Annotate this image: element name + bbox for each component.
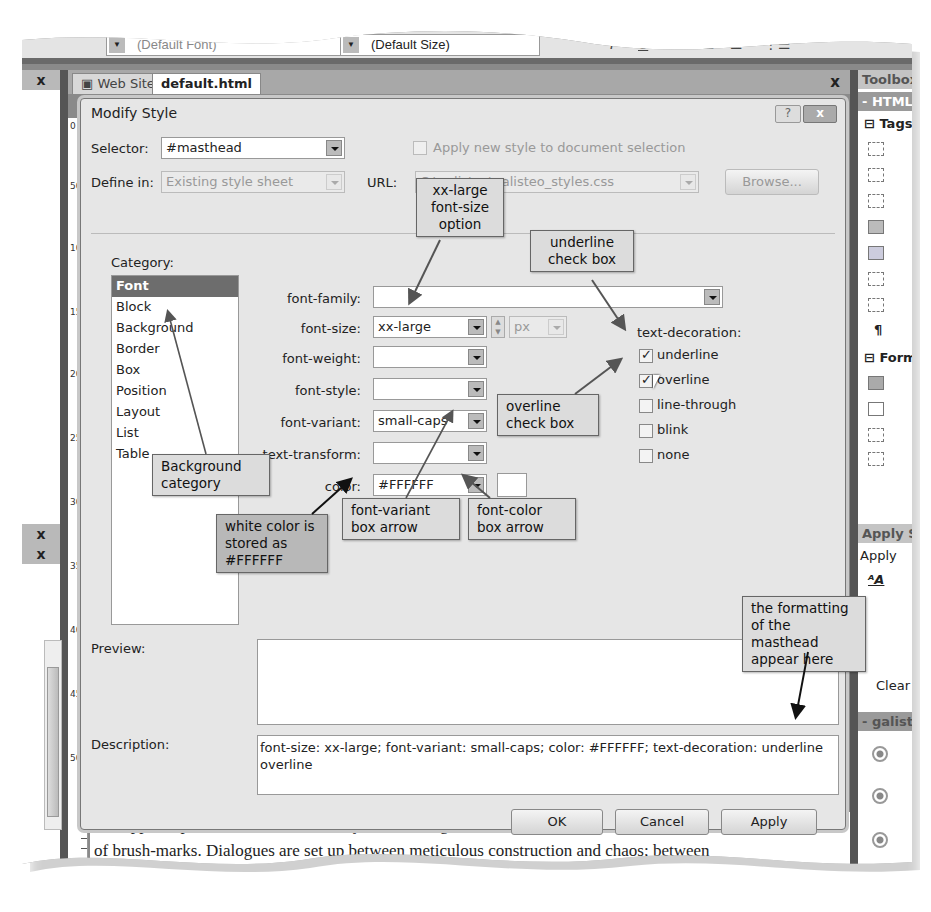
- category-font[interactable]: Font: [112, 276, 238, 297]
- text-transform-label: text-transform:: [263, 447, 361, 462]
- chevron-down-icon: [468, 349, 484, 365]
- overline-checkbox[interactable]: [639, 374, 653, 388]
- font-family-dropdown[interactable]: ▼ (Default Font): [106, 34, 376, 56]
- close-icon[interactable]: x: [22, 544, 60, 564]
- tab-web-site[interactable]: ▣ Web Site: [72, 73, 164, 94]
- hr-tag-icon[interactable]: [868, 220, 884, 234]
- iframe-tag-icon[interactable]: [868, 272, 884, 286]
- style-bullet-icon[interactable]: [872, 832, 888, 848]
- text-decoration-label: text-decoration:: [637, 325, 741, 340]
- define-in-label: Define in:: [91, 175, 154, 190]
- apply-new-style-label: Apply new style to document selection: [433, 140, 685, 155]
- span-tag-icon[interactable]: [868, 168, 884, 182]
- apply-styles-tab[interactable]: Apply: [860, 548, 897, 563]
- category-list[interactable]: List: [112, 423, 238, 444]
- font-variant-dropdown[interactable]: small-caps: [373, 410, 487, 432]
- chevron-down-icon: [704, 289, 720, 305]
- ruler-tick: 0: [70, 122, 78, 131]
- text-transform-dropdown[interactable]: [373, 442, 487, 464]
- clear-styles-item[interactable]: Clear: [876, 678, 910, 693]
- chevron-down-icon: [680, 174, 696, 190]
- description-label: Description:: [91, 737, 169, 752]
- forms-group[interactable]: ⊟ Form: [864, 350, 912, 365]
- div-tag-icon[interactable]: [868, 142, 884, 156]
- font-size-dropdown[interactable]: xx-large: [373, 316, 487, 338]
- preview-label: Preview:: [91, 641, 145, 656]
- selector-dropdown[interactable]: #masthead: [161, 137, 345, 159]
- ruler-tick: 400: [70, 626, 78, 635]
- category-background[interactable]: Background: [112, 318, 238, 339]
- align-right-button[interactable]: ☰: [730, 36, 743, 52]
- font-size-unit-dropdown[interactable]: px: [509, 316, 567, 338]
- apply-button[interactable]: Apply: [721, 809, 817, 835]
- layer-tag-icon[interactable]: [868, 298, 884, 312]
- category-border[interactable]: Border: [112, 339, 238, 360]
- define-in-dropdown[interactable]: Existing style sheet: [161, 171, 345, 193]
- close-icon[interactable]: x: [22, 524, 60, 544]
- toolbox-panel: Toolbox - HTML ⊟ Tags ¶ ⊟ Form Apply Sty…: [850, 70, 912, 870]
- underline-checkbox[interactable]: [639, 349, 653, 363]
- category-block[interactable]: Block: [112, 297, 238, 318]
- apply-new-style-checkbox[interactable]: [413, 141, 427, 155]
- paragraph-icon[interactable]: ¶: [874, 322, 882, 337]
- browse-button[interactable]: Browse...: [725, 169, 819, 195]
- galisteo-section-header[interactable]: - galisteo: [858, 712, 912, 731]
- align-center-button[interactable]: ☰: [702, 36, 715, 52]
- left-panel: x x x: [22, 70, 68, 870]
- blink-checkbox[interactable]: [639, 424, 653, 438]
- break-tag-icon[interactable]: [868, 194, 884, 208]
- font-size-dropdown[interactable]: ▼ (Default Size): [340, 34, 540, 56]
- ruler-tick: 250: [70, 434, 78, 443]
- callout-underline: underline check box: [530, 230, 634, 272]
- close-icon[interactable]: x: [22, 70, 60, 90]
- close-tab-icon[interactable]: x: [830, 73, 840, 91]
- image-tag-icon[interactable]: [868, 246, 884, 260]
- italic-button[interactable]: I: [610, 36, 614, 52]
- font-weight-dropdown[interactable]: [373, 346, 487, 368]
- font-weight-label: font-weight:: [282, 351, 361, 366]
- cancel-button[interactable]: Cancel: [615, 809, 709, 835]
- screenshot-frame: ▼ (Default Font) ▼ (Default Size) I U ☰ …: [22, 22, 912, 884]
- font-family-dropdown[interactable]: [373, 286, 723, 308]
- font-family-label: font-family:: [287, 291, 361, 306]
- style-bullet-icon[interactable]: [872, 746, 888, 762]
- html-section-header[interactable]: - HTML: [858, 92, 912, 111]
- help-button[interactable]: ?: [775, 105, 801, 123]
- chevron-down-icon: ▼: [109, 37, 125, 53]
- dropdown-box-icon[interactable]: [868, 402, 884, 416]
- list-button[interactable]: ⋮☰: [764, 36, 791, 52]
- style-bullet-icon[interactable]: [872, 788, 888, 804]
- close-dialog-button[interactable]: x: [803, 105, 837, 123]
- category-layout[interactable]: Layout: [112, 402, 238, 423]
- underline-button[interactable]: U: [638, 36, 648, 52]
- form-icon[interactable]: [868, 452, 884, 466]
- line-through-checkbox[interactable]: [639, 399, 653, 413]
- input-button-icon[interactable]: [868, 376, 884, 390]
- font-style-dropdown[interactable]: [373, 378, 487, 400]
- ok-button[interactable]: OK: [511, 809, 603, 835]
- align-left-button[interactable]: ☰: [672, 36, 685, 52]
- new-style-icon[interactable]: ᴬA: [868, 572, 884, 587]
- dialog-title: Modify Style: [91, 105, 177, 121]
- chevron-down-icon: [326, 140, 342, 156]
- color-swatch[interactable]: [497, 473, 527, 497]
- left-panel-scrollbar[interactable]: [44, 640, 62, 830]
- callout-white-color: white color is stored as #FFFFFF: [216, 514, 328, 573]
- callout-font-color-arrow: font-color box arrow: [468, 498, 576, 540]
- mouse-pointer-icon: [653, 375, 660, 389]
- color-label: color:: [325, 479, 361, 494]
- category-position[interactable]: Position: [112, 381, 238, 402]
- callout-formatting: the formatting of the masthead appear he…: [742, 596, 866, 672]
- tab-default-html[interactable]: default.html: [152, 73, 261, 94]
- font-variant-label: font-variant:: [280, 415, 361, 430]
- fieldset-icon[interactable]: [868, 428, 884, 442]
- scroll-thumb[interactable]: [47, 667, 59, 817]
- color-dropdown[interactable]: #FFFFFF: [373, 474, 487, 496]
- category-box[interactable]: Box: [112, 360, 238, 381]
- none-checkbox[interactable]: [639, 449, 653, 463]
- none-label: none: [657, 447, 689, 462]
- font-size-spinner[interactable]: ▲▼: [491, 316, 505, 338]
- tags-group[interactable]: ⊟ Tags: [864, 116, 912, 131]
- apply-styles-header: Apply Styles: [858, 524, 912, 543]
- font-style-label: font-style:: [295, 383, 361, 398]
